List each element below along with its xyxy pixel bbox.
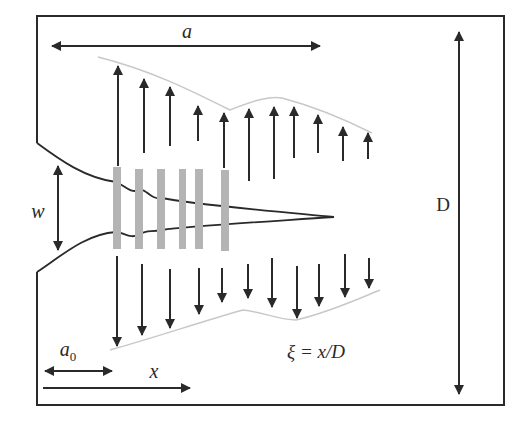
label-D: D (436, 194, 450, 215)
fracture-diagram: a w D a0 x ξ = x/D (0, 0, 529, 427)
label-a: a (182, 20, 192, 42)
bridge-bar (195, 169, 203, 249)
label-a0: a0 (60, 338, 77, 364)
bridge-bar (221, 170, 229, 251)
label-x: x (149, 360, 159, 382)
bridging-ligaments (113, 167, 229, 251)
formula-xi: ξ = x/D (287, 341, 345, 362)
upper-stress-envelope (98, 57, 372, 133)
label-w: w (31, 200, 45, 222)
upper-stress-arrows (118, 66, 368, 181)
lower-stress-arrows (117, 254, 369, 346)
bridge-bar (135, 169, 143, 249)
bridge-bar (157, 169, 165, 249)
bridge-bar (113, 167, 121, 249)
bridge-bar (179, 169, 186, 249)
